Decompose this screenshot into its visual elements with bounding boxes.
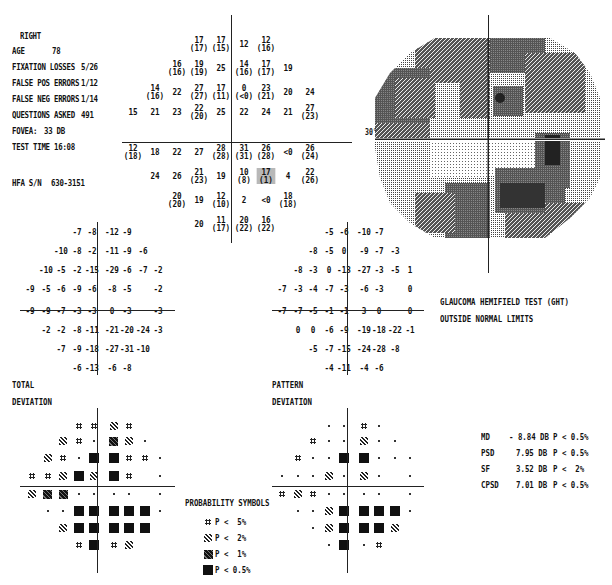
threshold-cell: 0(<0) <box>235 84 254 100</box>
pattern-deviation-symbol-dot <box>405 506 415 516</box>
pattern-deviation-symbol-p2 <box>359 471 369 481</box>
probability-p5-icon <box>126 455 132 461</box>
threshold-repeat-value: (11) <box>212 92 231 100</box>
probability-dot-icon <box>47 510 49 512</box>
total-deviation-value: -3 <box>83 306 102 316</box>
total-deviation-symbol-p05 <box>124 523 134 533</box>
legend-title: PROBABILITY SYMBOLS <box>185 498 269 508</box>
total-deviation-symbol-p2 <box>27 489 37 499</box>
threshold-horizontal-axis <box>122 142 352 143</box>
probability-dot-icon <box>93 493 95 495</box>
threshold-cell: 18(18) <box>279 192 298 208</box>
probability-p2-icon <box>44 454 52 462</box>
threshold-repeat-value: (<0) <box>235 92 254 100</box>
threshold-cell: 17(11) <box>212 84 231 100</box>
probability-p2-icon <box>110 422 118 430</box>
legend-label: P < 1% <box>215 549 246 559</box>
pattern-deviation-symbol-dot <box>374 436 384 446</box>
threshold-value: 19 <box>279 64 298 72</box>
threshold-value: 18 <box>146 148 165 156</box>
pattern-deviation-symbol-p05 <box>359 523 369 533</box>
probability-p1-icon <box>109 437 118 446</box>
threshold-cell: 2 <box>235 196 254 204</box>
probability-dot-icon <box>312 510 314 512</box>
pattern-deviation-symbol-dot <box>308 453 318 463</box>
total-deviation-symbol-p05 <box>109 506 119 516</box>
total-deviation-symbol-p05 <box>140 523 150 533</box>
threshold-cell: <0 <box>279 148 298 156</box>
pattern-deviation-value: -6 <box>370 363 389 373</box>
probability-p2-icon <box>59 524 67 532</box>
total-deviation-symbol-p2 <box>58 471 68 481</box>
serial-value: 630-3151 <box>51 178 85 188</box>
total-deviation-value: -6 <box>133 246 152 256</box>
probability-p05-icon <box>140 523 150 533</box>
threshold-cell: 27(27) <box>190 84 209 100</box>
grayscale-horizontal-axis <box>375 139 605 140</box>
probability-p5-icon <box>111 542 117 548</box>
total-deviation-symbol-p5 <box>58 453 68 463</box>
threshold-repeat-value: (28) <box>257 152 276 160</box>
threshold-value: 23 <box>168 108 187 116</box>
threshold-cell: <0 <box>257 196 276 204</box>
threshold-repeat-value: (23) <box>190 176 209 184</box>
pattern-deviation-value: -8 <box>385 344 404 354</box>
pattern-deviation-value: -15 <box>335 344 354 354</box>
probability-dot-icon <box>62 510 64 512</box>
serial-label: HFA S/N <box>12 178 41 188</box>
probability-p5-icon <box>76 438 82 444</box>
pattern-deviation-symbol-dot <box>374 453 384 463</box>
total-deviation-value: -2 <box>149 265 168 275</box>
threshold-cell: 15 <box>124 108 143 116</box>
probability-dot-icon <box>394 440 396 442</box>
td-num-vertical-axis <box>97 222 98 375</box>
total-deviation-value: -13 <box>83 363 102 373</box>
pd-prob-horizontal-axis <box>272 486 424 487</box>
total-deviation-value: -18 <box>83 344 102 354</box>
pattern-deviation-value: -1 <box>335 306 354 316</box>
probability-dot-icon <box>159 510 161 512</box>
false-pos-label: FALSE POS ERRORS <box>12 78 79 88</box>
threshold-value: 24 <box>257 108 276 116</box>
probability-p2-icon <box>325 507 333 515</box>
total-deviation-value: -3 <box>149 306 168 316</box>
pattern-deviation-symbol-dot <box>405 471 415 481</box>
threshold-repeat-value: (16) <box>257 44 276 52</box>
total-deviation-value: -15 <box>83 265 102 275</box>
threshold-value: 12 <box>235 40 254 48</box>
threshold-cell: 17(1) <box>257 168 276 184</box>
total-deviation-symbol-p5 <box>27 471 37 481</box>
legend-label: P < 5% <box>215 517 246 527</box>
pattern-deviation-value: -13 <box>335 265 354 275</box>
total-deviation-symbol-dot <box>74 453 84 463</box>
probability-p5-icon <box>279 491 285 497</box>
probability-p2-icon <box>125 437 133 445</box>
probability-p05-icon <box>359 506 369 516</box>
probability-p2-icon <box>360 437 368 445</box>
threshold-vertical-axis <box>231 15 232 243</box>
threshold-cell: 24 <box>257 108 276 116</box>
pattern-deviation-symbol-dot <box>293 471 303 481</box>
total-deviation-symbol-dot <box>124 489 134 499</box>
grayscale-plot <box>375 38 605 238</box>
probability-dot-icon <box>378 475 380 477</box>
threshold-cell: 27(23) <box>301 104 320 120</box>
threshold-cell: 20(22) <box>235 216 254 232</box>
probability-dot-icon <box>78 457 80 459</box>
threshold-cell: 21 <box>279 108 298 116</box>
threshold-cell: 16(22) <box>257 216 276 232</box>
probability-p05-icon <box>359 523 369 533</box>
threshold-cell: 12(10) <box>212 192 231 208</box>
pattern-deviation-value: -3 <box>335 284 354 294</box>
probability-dot-icon <box>281 475 283 477</box>
probability-dot-icon <box>159 457 161 459</box>
probability-p05-icon <box>109 506 119 516</box>
threshold-cell: 24 <box>146 172 165 180</box>
threshold-repeat-value: (16) <box>146 92 165 100</box>
fovea-value: 33 DB <box>44 126 65 136</box>
pattern-deviation-symbol-dot <box>374 489 384 499</box>
threshold-repeat-value: (28) <box>212 152 231 160</box>
grayscale-axis-label: 30° <box>365 128 377 137</box>
pattern-deviation-symbol-p2 <box>359 436 369 446</box>
probability-dot-icon <box>363 493 365 495</box>
